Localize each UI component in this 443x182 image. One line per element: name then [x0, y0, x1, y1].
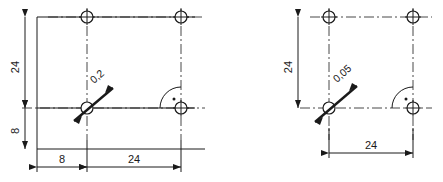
figure-left: 0,2 24 8 8 24	[9, 8, 205, 172]
dimension-label-horizontal-24: 24	[365, 139, 377, 151]
drawing-sheet: 0,2 24 8 8 24	[0, 0, 443, 182]
tolerance-value-left: 0,2	[87, 67, 106, 86]
tolerance-arrow-line	[315, 86, 357, 122]
figure-right: 0,05 24 24	[282, 8, 432, 158]
part-outline-left	[37, 17, 205, 149]
dimension-label-vertical-24: 24	[282, 61, 294, 73]
tolerance-leader-right: 0,05	[315, 62, 357, 125]
centerlines-left	[22, 8, 205, 140]
tolerance-leader-left: 0,2	[74, 67, 113, 124]
dimension-label-vertical-24: 24	[9, 61, 21, 73]
dimension-label-vertical-8: 8	[9, 128, 21, 134]
tolerance-arrow-line	[74, 88, 113, 121]
holes-left	[81, 11, 187, 114]
right-angle-dot	[173, 98, 176, 101]
hole-crosshairs-left	[79, 9, 189, 116]
right-angle-dot	[405, 98, 408, 101]
tolerance-value-right: 0,05	[330, 62, 353, 85]
engineering-drawing-canvas: 0,2 24 8 8 24	[0, 0, 443, 182]
dimension-label-horizontal-8: 8	[59, 153, 65, 165]
dimension-label-horizontal-24: 24	[128, 153, 140, 165]
